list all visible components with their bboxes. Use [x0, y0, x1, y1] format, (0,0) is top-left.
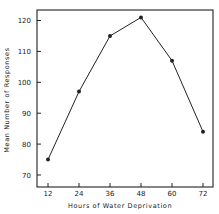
y-tick-label: 80: [22, 141, 31, 149]
x-tick-label: 48: [137, 190, 146, 198]
data-point: [170, 59, 174, 63]
x-tick-label: 36: [106, 190, 115, 198]
line-chart: 708090100110120 122436486072 Hours of Wa…: [0, 0, 219, 214]
x-tick-label: 12: [44, 190, 53, 198]
x-tick-label: 60: [168, 190, 177, 198]
y-tick-label: 110: [18, 48, 31, 56]
data-line: [48, 17, 203, 159]
y-tick-label: 120: [18, 17, 31, 25]
y-axis-label: Mean Number of Responses: [3, 47, 11, 152]
x-tick-label: 24: [75, 190, 84, 198]
data-point: [108, 34, 112, 38]
data-point: [46, 158, 50, 162]
y-tick-label: 90: [22, 110, 31, 118]
data-point: [77, 90, 81, 94]
data-point: [139, 15, 143, 19]
data-point: [201, 130, 205, 134]
data-markers: [46, 15, 205, 161]
x-axis-label: Hours of Water Deprivation: [68, 202, 172, 210]
y-tick-label: 100: [18, 79, 31, 87]
x-tick-label: 72: [199, 190, 208, 198]
y-tick-label: 70: [22, 172, 31, 180]
x-axis-ticks: 122436486072: [44, 183, 208, 198]
plot-frame: [37, 10, 213, 187]
